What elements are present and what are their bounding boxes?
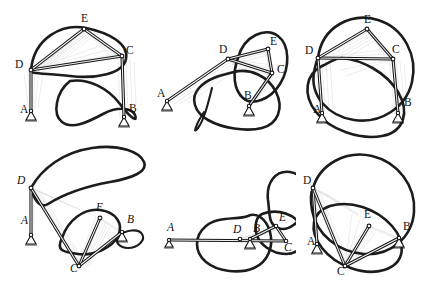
joint-label-d: D xyxy=(16,174,26,186)
joint-label-e: E xyxy=(95,201,103,213)
joint-label-b: B xyxy=(127,213,134,225)
joint-e xyxy=(367,224,371,228)
joint-e xyxy=(82,27,86,31)
joint-label-c: C xyxy=(70,262,78,274)
linkage-bars-top-right xyxy=(318,29,398,113)
panel-bottom-left: A B C D E xyxy=(0,143,148,286)
panel-bottom-right: A B C D E xyxy=(296,143,444,286)
panel-bottom-middle: A B C D E xyxy=(148,143,296,286)
figure-grid: A B C D E xyxy=(0,0,444,286)
joint-d xyxy=(29,186,33,190)
joint-c xyxy=(120,54,124,58)
joint-label-b: B xyxy=(403,220,411,232)
joint-label-c: C xyxy=(126,44,134,56)
joint-label-b: B xyxy=(244,89,252,101)
coupler-curve-top-arc-bottom-left xyxy=(31,147,145,205)
ground-pivot-a xyxy=(25,233,37,245)
joint-label-a: A xyxy=(157,87,166,99)
panel-top-middle: A B C D E xyxy=(148,0,296,143)
joint-label-e: E xyxy=(270,35,277,47)
joint-label-e: E xyxy=(278,211,286,223)
joint-label-b: B xyxy=(129,102,137,114)
joint-label-a: A xyxy=(166,221,175,233)
joint-e xyxy=(98,216,102,220)
joint-c xyxy=(270,71,274,75)
joint-d xyxy=(316,56,320,60)
panel-top-left: A B C D E xyxy=(0,0,148,143)
joint-label-d: D xyxy=(15,58,23,70)
ground-pivot-b xyxy=(392,111,404,123)
joint-label-b: B xyxy=(404,96,412,108)
joint-label-d: D xyxy=(219,43,227,55)
joint-label-d: D xyxy=(303,174,311,186)
joint-c xyxy=(391,57,395,61)
joint-d xyxy=(29,68,33,72)
panel-top-right: A B C D E xyxy=(296,0,444,143)
joint-label-a: A xyxy=(313,103,322,115)
joint-label-c: C xyxy=(277,63,285,75)
joint-label-e: E xyxy=(81,12,88,24)
joint-label-b: B xyxy=(253,222,260,234)
joints-bottom-left xyxy=(25,186,128,268)
joint-d xyxy=(226,57,230,61)
joint-e xyxy=(266,47,270,51)
ground-pivot-a xyxy=(161,99,173,111)
joints-top-middle xyxy=(161,47,274,116)
joint-label-c: C xyxy=(284,241,292,253)
joint-label-a: A xyxy=(20,214,29,226)
joint-label-e: E xyxy=(364,208,371,220)
joint-label-a: A xyxy=(20,103,29,115)
joint-label-e: E xyxy=(364,13,371,25)
joint-d xyxy=(238,237,242,241)
joint-label-d: D xyxy=(232,223,242,235)
joint-e xyxy=(365,27,369,31)
joint-e xyxy=(274,224,278,228)
joint-label-c: C xyxy=(392,43,400,55)
joint-d xyxy=(311,186,315,190)
joint-label-a: A xyxy=(307,235,316,247)
joint-label-c: C xyxy=(337,265,345,277)
linkage-bars-bottom-middle xyxy=(169,226,286,241)
ground-pivot-b xyxy=(243,104,255,116)
joint-label-d: D xyxy=(305,44,313,56)
